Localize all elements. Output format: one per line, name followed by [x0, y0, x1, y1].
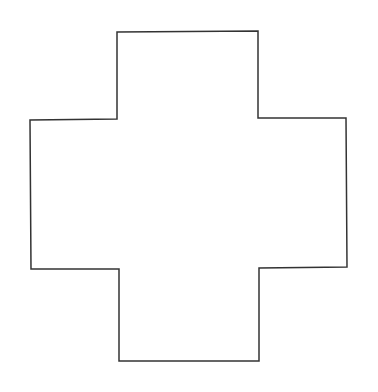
- diagram-canvas: [0, 0, 378, 392]
- cross-shape: [30, 31, 347, 361]
